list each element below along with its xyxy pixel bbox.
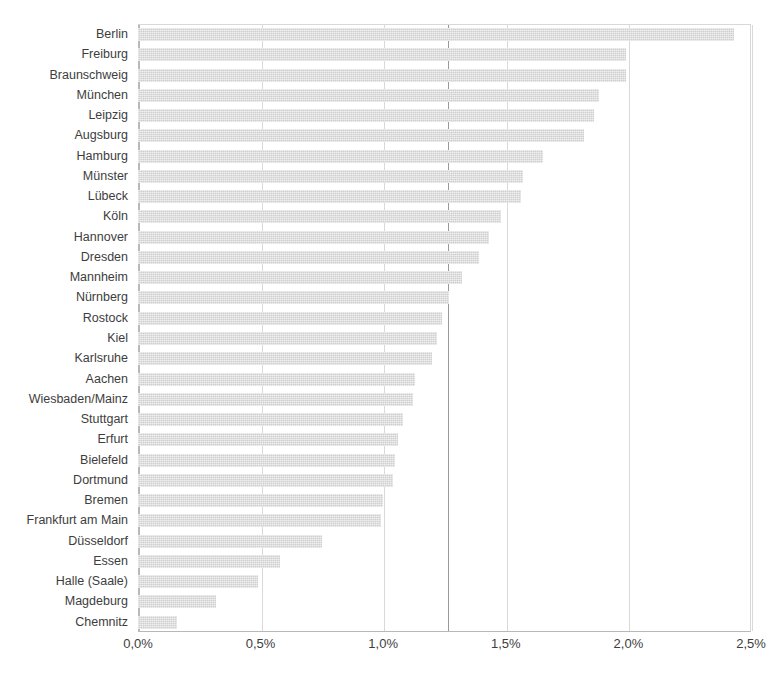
category-label: Braunschweig <box>49 65 128 87</box>
bar <box>138 514 381 527</box>
bar <box>138 150 543 163</box>
bar <box>138 312 442 325</box>
category-label: Nürnberg <box>76 287 128 309</box>
bar <box>138 251 479 264</box>
category-label: Essen <box>93 551 128 573</box>
bar <box>138 413 403 426</box>
category-label: Karlsruhe <box>75 348 129 370</box>
x-tick-label: 1,0% <box>368 636 398 651</box>
category-label: Augsburg <box>74 125 128 147</box>
category-label: München <box>77 85 128 107</box>
bar <box>138 575 258 588</box>
bar-row <box>138 44 751 66</box>
category-label: Hamburg <box>77 146 128 168</box>
category-label: Dortmund <box>73 470 128 492</box>
category-label: Hannover <box>74 227 128 249</box>
category-label: Halle (Saale) <box>56 571 128 593</box>
bar-row <box>138 450 751 472</box>
bar-row <box>138 105 751 127</box>
category-label: Stuttgart <box>81 409 128 431</box>
category-label: Dresden <box>81 247 128 269</box>
bar-row <box>138 328 751 350</box>
bar-row <box>138 206 751 228</box>
bar <box>138 474 393 487</box>
category-label: Erfurt <box>97 429 128 451</box>
category-label: Frankfurt am Main <box>27 510 128 532</box>
bar <box>138 373 415 386</box>
bar <box>138 535 322 548</box>
bar-series <box>138 24 751 632</box>
x-tick-label: 1,5% <box>491 636 521 651</box>
category-label: Kiel <box>107 328 128 350</box>
bar <box>138 291 449 304</box>
category-axis-labels: BerlinFreiburgBraunschweigMünchenLeipzig… <box>0 24 133 632</box>
bar-row <box>138 247 751 269</box>
bar-row <box>138 166 751 188</box>
category-label: Freiburg <box>81 44 128 66</box>
bar <box>138 69 626 82</box>
bar-row <box>138 227 751 249</box>
bar-row <box>138 267 751 289</box>
bar-row <box>138 429 751 451</box>
category-label: Münster <box>83 166 128 188</box>
bar <box>138 595 216 608</box>
bar-row <box>138 85 751 107</box>
bar-row <box>138 146 751 168</box>
bar <box>138 271 462 284</box>
bar-row <box>138 308 751 330</box>
bar-row <box>138 24 751 46</box>
scan-artifact <box>14 0 54 12</box>
bar <box>138 129 584 142</box>
bar-row <box>138 409 751 431</box>
bar <box>138 231 489 244</box>
bar-row <box>138 591 751 613</box>
category-label: Bremen <box>84 490 128 512</box>
bar <box>138 109 594 122</box>
x-tick-label: 0,0% <box>123 636 153 651</box>
bar-row <box>138 612 751 634</box>
bar-row <box>138 571 751 593</box>
bar <box>138 555 280 568</box>
category-label: Rostock <box>83 308 128 330</box>
bar <box>138 616 177 629</box>
category-label: Köln <box>103 206 128 228</box>
category-label: Berlin <box>96 24 128 46</box>
category-label: Mannheim <box>70 267 128 289</box>
category-label: Chemnitz <box>75 612 128 634</box>
bar <box>138 170 523 183</box>
bar-row <box>138 65 751 87</box>
bar-row <box>138 551 751 573</box>
x-tick-label: 2,0% <box>614 636 644 651</box>
bar <box>138 190 521 203</box>
bar <box>138 393 413 406</box>
bar <box>138 28 734 41</box>
bar <box>138 210 501 223</box>
bar-row <box>138 531 751 553</box>
bar-row <box>138 186 751 208</box>
bar <box>138 494 383 507</box>
category-label: Wiesbaden/Mainz <box>29 389 128 411</box>
bar <box>138 454 395 467</box>
bar <box>138 433 398 446</box>
value-axis-labels: 0,0%0,5%1,0%1,5%2,0%2,5% <box>0 636 779 660</box>
bar-row <box>138 348 751 370</box>
category-label: Magdeburg <box>65 591 128 613</box>
category-label: Aachen <box>86 369 128 391</box>
category-label: Bielefeld <box>80 450 128 472</box>
bar-row <box>138 369 751 391</box>
bar-row <box>138 510 751 532</box>
x-tick-label: 0,5% <box>246 636 276 651</box>
bar-row <box>138 287 751 309</box>
bar-chart: BerlinFreiburgBraunschweigMünchenLeipzig… <box>0 0 779 682</box>
bar <box>138 48 626 61</box>
bar <box>138 332 437 345</box>
bar-row <box>138 490 751 512</box>
bar-row <box>138 125 751 147</box>
category-label: Lübeck <box>88 186 128 208</box>
bar <box>138 89 599 102</box>
category-label: Düsseldorf <box>68 531 128 553</box>
category-label: Leipzig <box>88 105 128 127</box>
bar-row <box>138 470 751 492</box>
bar <box>138 352 432 365</box>
gridline-25 <box>752 25 753 631</box>
